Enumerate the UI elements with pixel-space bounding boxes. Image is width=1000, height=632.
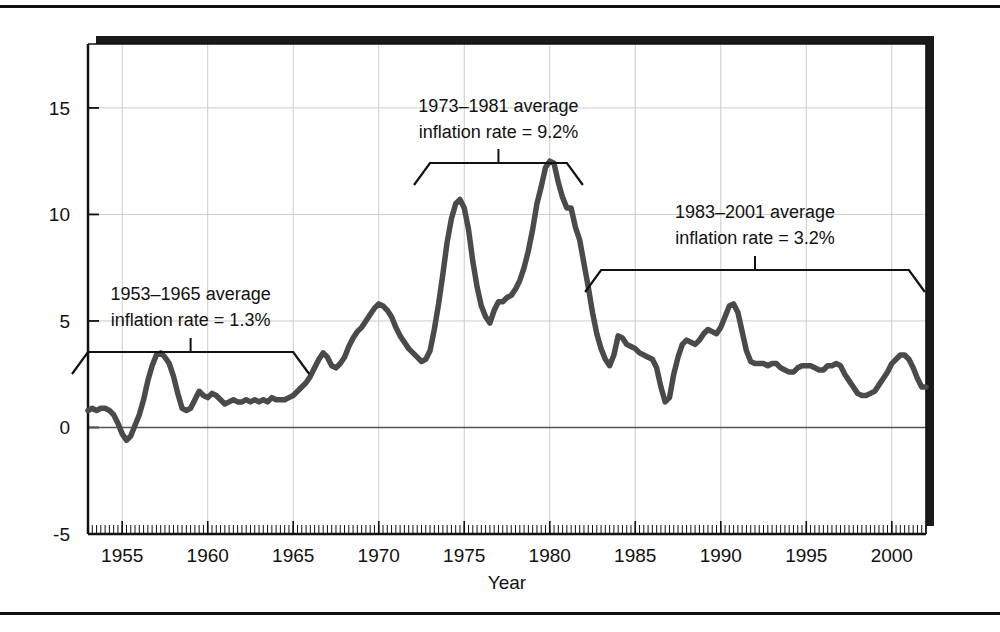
x-tick-label: 1995 <box>785 545 827 566</box>
inflation-line-chart: -5051015 1955196019651970197519801985199… <box>0 0 1000 600</box>
y-tick-label: 0 <box>59 417 70 438</box>
figure-bottom-rule <box>0 612 1000 615</box>
plot-wrapper: -5051015 1955196019651970197519801985199… <box>0 0 1000 600</box>
y-tick-label: -5 <box>53 524 70 545</box>
x-tick-label: 1990 <box>700 545 742 566</box>
y-tick-label: 5 <box>59 311 70 332</box>
x-tick-label: 1970 <box>358 545 400 566</box>
annotation-line-2: inflation rate = 1.3% <box>111 310 271 330</box>
annotation-line-1: 1953–1965 average <box>111 284 271 304</box>
x-tick-label: 1975 <box>443 545 485 566</box>
x-axis-title: Year <box>488 572 527 593</box>
x-tick-label: 1960 <box>187 545 229 566</box>
x-tick-label: 1965 <box>272 545 314 566</box>
figure-container: -5051015 1955196019651970197519801985199… <box>0 0 1000 632</box>
annotation-line-2: inflation rate = 9.2% <box>419 122 579 142</box>
x-tick-label: 1955 <box>101 545 143 566</box>
y-axis-tick-labels: -5051015 <box>49 98 70 545</box>
y-tick-label: 15 <box>49 98 70 119</box>
annotation-line-2: inflation rate = 3.2% <box>675 228 835 248</box>
x-tick-label: 2000 <box>871 545 913 566</box>
x-tick-label: 1985 <box>614 545 656 566</box>
annotation-line-1: 1973–1981 average <box>418 96 578 116</box>
x-tick-label: 1980 <box>529 545 571 566</box>
annotation-line-1: 1983–2001 average <box>675 202 835 222</box>
y-tick-label: 10 <box>49 204 70 225</box>
x-axis-tick-labels: 1955196019651970197519801985199019952000 <box>101 545 913 566</box>
